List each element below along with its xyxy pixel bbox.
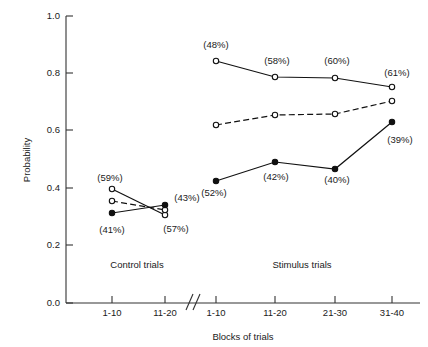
y-tick-label-0-6: 0.6 xyxy=(47,124,60,135)
y-tick-label-0-8: 0.8 xyxy=(47,67,60,78)
x-tick-label-stimulus-1-10: 1-10 xyxy=(206,307,225,318)
line-open-solid-control xyxy=(112,189,165,215)
line-open-solid-stimulus xyxy=(216,61,392,87)
y-tick-label-0-4: 0.4 xyxy=(47,182,60,193)
x-axis-title: Blocks of trials xyxy=(212,331,273,342)
annotation-stimulus-open-31-40: (61%) xyxy=(384,67,409,78)
x-axis: 1-10 11-20 1-10 11-20 21-30 31-40 Blocks… xyxy=(66,294,420,342)
line-filled-solid-stimulus xyxy=(216,122,392,181)
panel-label-control: Control trials xyxy=(110,259,164,270)
marker-filled-solid-stimulus-11-20 xyxy=(272,159,277,164)
annotation-control-open-1-10: (59%) xyxy=(97,172,122,183)
marker-filled-solid-stimulus-31-40 xyxy=(389,119,394,124)
marker-open-solid-control-1-10 xyxy=(109,186,114,191)
x-tick-label-stimulus-11-20: 11-20 xyxy=(263,307,287,318)
chart-figure: 1.0 0.8 0.6 0.4 0.2 0.0 Probability 1-10… xyxy=(0,0,428,347)
marker-open-dashed-control-1-10 xyxy=(109,198,114,203)
annotation-stimulus-open-11-20: (58%) xyxy=(264,55,289,66)
annotation-stimulus-open-21-30: (60%) xyxy=(324,55,349,66)
marker-open-dashed-stimulus-11-20 xyxy=(272,112,277,117)
stimulus-panel-series: (48%) (58%) (60%) (61%) (52%) (42%) (40%… xyxy=(201,39,412,198)
axis-break-icon xyxy=(186,294,200,310)
annotation-control-filled-1-10: (41%) xyxy=(99,224,124,235)
chart-canvas: 1.0 0.8 0.6 0.4 0.2 0.0 Probability 1-10… xyxy=(0,0,428,347)
y-tick-label-1-0: 1.0 xyxy=(47,10,60,21)
marker-filled-solid-stimulus-1-10 xyxy=(213,178,218,183)
annotation-stimulus-filled-31-40: (39%) xyxy=(387,134,412,145)
line-filled-solid-control xyxy=(112,205,165,213)
annotation-stimulus-open-1-10: (48%) xyxy=(203,39,228,50)
marker-open-dashed-stimulus-1-10 xyxy=(213,122,218,127)
annotation-control-filled-11-20: (43%) xyxy=(174,192,199,203)
annotation-control-open-11-20: (57%) xyxy=(163,223,188,234)
marker-filled-solid-stimulus-21-30 xyxy=(332,166,337,171)
marker-filled-solid-control-1-10 xyxy=(109,210,114,215)
marker-filled-solid-control-11-20 xyxy=(162,202,167,207)
y-axis-title: Probability xyxy=(21,138,32,183)
annotation-stimulus-filled-21-30: (40%) xyxy=(324,174,349,185)
marker-open-solid-stimulus-31-40 xyxy=(389,84,394,89)
control-panel-series: (59%) (57%) (41%) (43%) xyxy=(97,172,199,235)
x-tick-label-stimulus-21-30: 21-30 xyxy=(323,307,347,318)
x-tick-label-control-1-10: 1-10 xyxy=(102,307,121,318)
marker-open-dashed-stimulus-31-40 xyxy=(389,98,394,103)
marker-open-solid-stimulus-1-10 xyxy=(213,58,218,63)
y-tick-label-0-2: 0.2 xyxy=(47,239,60,250)
marker-open-solid-stimulus-11-20 xyxy=(272,74,277,79)
x-tick-label-stimulus-31-40: 31-40 xyxy=(380,307,404,318)
marker-open-dashed-stimulus-21-30 xyxy=(332,111,337,116)
y-axis: 1.0 0.8 0.6 0.4 0.2 0.0 Probability xyxy=(21,10,73,308)
line-open-dashed-stimulus xyxy=(216,101,392,125)
annotation-stimulus-filled-1-10: (52%) xyxy=(201,187,226,198)
annotation-stimulus-filled-11-20: (42%) xyxy=(263,171,288,182)
panel-label-stimulus: Stimulus trials xyxy=(272,259,331,270)
x-tick-label-control-11-20: 11-20 xyxy=(153,307,177,318)
marker-open-solid-stimulus-21-30 xyxy=(332,75,337,80)
y-tick-label-0-0: 0.0 xyxy=(47,297,60,308)
